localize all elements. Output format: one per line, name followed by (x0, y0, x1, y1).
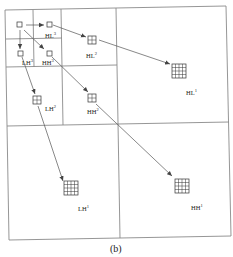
label-hh1: HH1 (191, 203, 203, 211)
arrow-hh2-hh1 (96, 104, 172, 176)
figure-caption: (b) (110, 243, 122, 255)
hl3-cell (47, 22, 52, 27)
hh2-block (88, 94, 96, 102)
ll3-cell (17, 22, 22, 27)
label-lh1: LH1 (78, 204, 89, 212)
hh1-block (175, 179, 189, 193)
label-hl2: HL2 (86, 51, 97, 59)
label-lh2: LH2 (45, 104, 56, 112)
lh2-block (33, 96, 41, 104)
lh3-cell (18, 51, 23, 56)
lh1-block (64, 181, 78, 195)
label-lh3: LH3 (22, 58, 34, 66)
label-hl1: HL1 (186, 88, 197, 96)
hl1-block (172, 64, 186, 78)
dependency-arrows (20, 25, 172, 181)
arrow-hl3-hl2 (53, 25, 86, 37)
level1-vertical-divider (116, 8, 120, 238)
label-hh2: HH2 (87, 107, 99, 115)
wavelet-quadtree-diagram: HL3 LH3 HH3 HL2 LH2 HH2 HL1 LH1 HH1 (b) (0, 0, 233, 257)
hh3-cell (47, 51, 52, 56)
arrow-hl2-hl1 (99, 40, 170, 64)
arrow-lh2-lh1 (38, 106, 63, 181)
hl2-block (88, 36, 96, 44)
arrow-hh3-hh2 (52, 57, 88, 92)
label-hh3: HH3 (42, 58, 54, 66)
